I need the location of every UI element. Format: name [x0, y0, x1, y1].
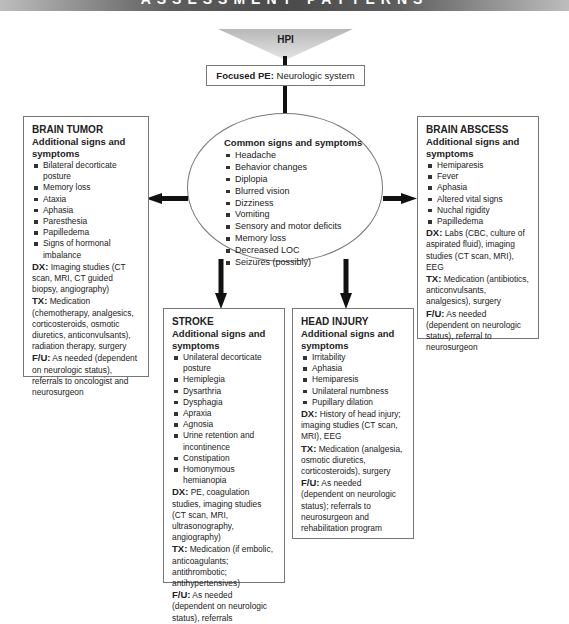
arrow-left-icon — [146, 193, 188, 205]
list-item: Signs of hormonal imbalance — [32, 238, 141, 260]
list-item: Hemiparesis — [426, 160, 531, 171]
common-symptoms: Common signs and symptoms Headache Behav… — [224, 137, 362, 269]
list-item: Apraxia — [172, 408, 277, 419]
list-item: Diplopia — [224, 174, 362, 186]
brain-tumor-box: BRAIN TUMOR Additional signs and symptom… — [23, 116, 149, 377]
brain-tumor-fu: F/U: As needed (dependent on neurologic … — [32, 352, 141, 398]
list-item: Memory loss — [32, 182, 141, 193]
head-injury-subtitle: Additional signs and symptoms — [301, 328, 406, 352]
head-injury-tx: TX: Medication (analgesia, osmotic diure… — [301, 443, 406, 478]
list-item: Papilledema — [32, 227, 141, 238]
list-item: Dizziness — [224, 198, 362, 210]
focused-pe-box: Focused PE: Neurologic system — [206, 65, 365, 86]
list-item: Agnosia — [172, 419, 277, 430]
brain-abscess-dx: DX: Labs (CBC, culture of aspirated flui… — [426, 227, 531, 273]
connector-pe-oval — [283, 86, 287, 114]
stroke-box: STROKE Additional signs and symptoms Uni… — [163, 308, 285, 583]
arrow-down-head-injury-icon — [340, 259, 352, 309]
banner: ASSESSMENT PATTERNS — [0, 0, 569, 11]
list-item: Urine retention and incontinence — [172, 430, 277, 452]
list-item: Bilateral decorticate posture — [32, 160, 141, 182]
brain-abscess-tx: TX: Medication (antibiotics, anticonvuls… — [426, 273, 531, 308]
list-item: Dysphagia — [172, 397, 277, 408]
list-item: Hemiplegia — [172, 374, 277, 385]
stroke-dx: DX: PE, coagulation studies, imaging stu… — [172, 486, 277, 543]
brain-tumor-list: Bilateral decorticate posture Memory los… — [32, 160, 141, 261]
list-item: Behavior changes — [224, 162, 362, 174]
brain-abscess-list: Hemiparesis Fever Aphasia Altered vital … — [426, 160, 531, 227]
hpi-label: HPI — [218, 34, 353, 45]
list-item: Irritability — [301, 352, 406, 363]
list-item: Blurred vision — [224, 186, 362, 198]
stroke-tx: TX: Medication (if embolic, anticoagulan… — [172, 543, 277, 589]
brain-tumor-dx: DX: Imaging studies (CT scan, MRI, CT gu… — [32, 261, 141, 296]
focused-pe-value: Neurologic system — [277, 70, 355, 81]
list-item: Sensory and motor deficits — [224, 221, 362, 233]
list-item: Pupillary dilation — [301, 397, 406, 408]
stroke-fu: F/U: As needed (dependent on neurologic … — [172, 589, 277, 624]
stroke-list: Unilateral decorticate posture Hemiplegi… — [172, 352, 277, 486]
list-item: Papilledema — [426, 216, 531, 227]
list-item: Hemiparesis — [301, 374, 406, 385]
focused-pe-label: Focused PE: — [216, 70, 274, 81]
head-injury-title: HEAD INJURY — [301, 316, 406, 328]
stroke-title: STROKE — [172, 316, 277, 328]
common-list: Headache Behavior changes Diplopia Blurr… — [224, 150, 362, 269]
banner-title: ASSESSMENT PATTERNS — [0, 0, 569, 7]
list-item: Memory loss — [224, 233, 362, 245]
head-injury-fu: F/U: As needed (dependent on neurologic … — [301, 477, 406, 534]
brain-abscess-subtitle: Additional signs and symptoms — [426, 136, 531, 160]
stroke-subtitle: Additional signs and symptoms — [172, 328, 277, 352]
list-item: Vomiting — [224, 209, 362, 221]
list-item: Nuchal rigidity — [426, 205, 531, 216]
brain-abscess-box: BRAIN ABSCESS Additional signs and sympt… — [417, 116, 539, 339]
list-item: Headache — [224, 150, 362, 162]
list-item: Paresthesia — [32, 216, 141, 227]
brain-tumor-title: BRAIN TUMOR — [32, 124, 141, 136]
list-item: Unilateral decorticate posture — [172, 352, 277, 374]
head-injury-dx: DX: History of head injury; imaging stud… — [301, 408, 406, 443]
list-item: Ataxia — [32, 194, 141, 205]
list-item: Altered vital signs — [426, 194, 531, 205]
list-item: Aphasia — [426, 182, 531, 193]
head-injury-list: Irritability Aphasia Hemiparesis Unilate… — [301, 352, 406, 408]
list-item: Constipation — [172, 453, 277, 464]
arrow-down-stroke-icon — [215, 259, 227, 309]
list-item: Aphasia — [301, 363, 406, 374]
brain-tumor-tx: TX: Medication (chemotherapy, analgesics… — [32, 295, 141, 352]
brain-abscess-title: BRAIN ABSCESS — [426, 124, 531, 136]
common-title: Common signs and symptoms — [224, 137, 362, 149]
list-item: Homonymous hemianopia — [172, 464, 277, 486]
brain-abscess-fu: F/U: As needed (dependent on neurologic … — [426, 308, 531, 354]
list-item: Unilateral numbness — [301, 386, 406, 397]
arrow-right-icon — [383, 193, 417, 205]
list-item: Aphasia — [32, 205, 141, 216]
list-item: Fever — [426, 171, 531, 182]
brain-tumor-subtitle: Additional signs and symptoms — [32, 136, 141, 160]
list-item: Dysarthria — [172, 386, 277, 397]
head-injury-box: HEAD INJURY Additional signs and symptom… — [292, 308, 414, 539]
list-item: Decreased LOC — [224, 245, 362, 257]
